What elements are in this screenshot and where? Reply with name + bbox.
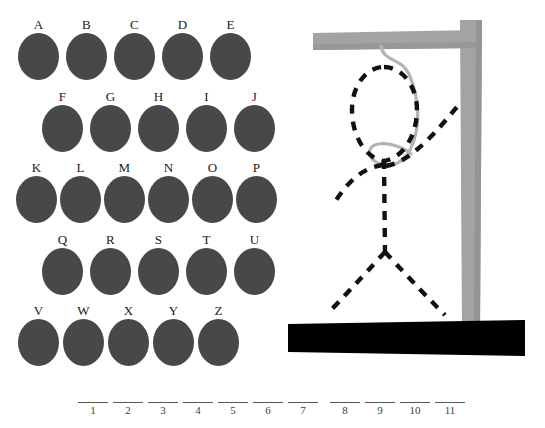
letter-key-disc[interactable] — [114, 33, 155, 80]
blank-number: 10 — [400, 404, 430, 416]
blank-number: 5 — [218, 404, 248, 416]
letter-key-disc[interactable] — [186, 248, 227, 295]
blank-rule — [113, 402, 143, 403]
letter-key-disc[interactable] — [108, 319, 149, 366]
blank-slot-11[interactable]: 11 — [435, 392, 465, 424]
letter-key-label: M — [104, 161, 145, 175]
blank-slot-4[interactable]: 4 — [183, 392, 213, 424]
blank-slot-7[interactable]: 7 — [288, 392, 318, 424]
letter-key-label: K — [16, 161, 57, 175]
letter-key-disc[interactable] — [198, 319, 239, 366]
letter-key-label: A — [18, 18, 59, 32]
word-blanks: 1234567891011 — [0, 392, 545, 428]
letter-key-l[interactable]: L — [60, 161, 101, 225]
letter-key-b[interactable]: B — [66, 18, 107, 82]
blank-slot-3[interactable]: 3 — [148, 392, 178, 424]
blank-number: 4 — [183, 404, 213, 416]
blank-rule — [148, 402, 178, 403]
letter-key-u[interactable]: U — [234, 233, 275, 297]
blank-slot-10[interactable]: 10 — [400, 392, 430, 424]
stick-figure-icon — [332, 67, 460, 315]
letter-key-k[interactable]: K — [16, 161, 57, 225]
blank-rule — [365, 402, 395, 403]
letter-key-disc[interactable] — [138, 248, 179, 295]
letter-key-m[interactable]: M — [104, 161, 145, 225]
letter-key-disc[interactable] — [162, 33, 203, 80]
blank-rule — [253, 402, 283, 403]
letter-key-z[interactable]: Z — [198, 304, 239, 368]
letter-key-disc[interactable] — [16, 176, 57, 223]
letter-key-disc[interactable] — [234, 105, 275, 152]
letter-key-disc[interactable] — [210, 33, 251, 80]
blank-slot-6[interactable]: 6 — [253, 392, 283, 424]
figure-right-leg — [385, 252, 445, 315]
letter-key-disc[interactable] — [60, 176, 101, 223]
figure-head — [352, 67, 417, 161]
blank-slot-5[interactable]: 5 — [218, 392, 248, 424]
letter-key-disc[interactable] — [18, 33, 59, 80]
letter-key-label: J — [234, 90, 275, 104]
letter-key-label: Q — [42, 233, 83, 247]
blank-slot-8[interactable]: 8 — [330, 392, 360, 424]
letter-key-label: Y — [153, 304, 194, 318]
letter-key-o[interactable]: O — [192, 161, 233, 225]
letter-key-disc[interactable] — [192, 176, 233, 223]
letter-key-r[interactable]: R — [90, 233, 131, 297]
letter-key-g[interactable]: G — [90, 90, 131, 154]
letter-key-t[interactable]: T — [186, 233, 227, 297]
letter-key-label: B — [66, 18, 107, 32]
letter-key-h[interactable]: H — [138, 90, 179, 154]
rope-icon — [369, 46, 417, 165]
letter-key-disc[interactable] — [90, 105, 131, 152]
letter-key-label: X — [108, 304, 149, 318]
letter-key-i[interactable]: I — [186, 90, 227, 154]
letter-key-label: C — [114, 18, 155, 32]
blank-rule — [218, 402, 248, 403]
letter-key-x[interactable]: X — [108, 304, 149, 368]
letter-key-label: E — [210, 18, 251, 32]
blank-slot-1[interactable]: 1 — [78, 392, 108, 424]
letter-key-disc[interactable] — [148, 176, 189, 223]
figure-left-leg — [332, 252, 385, 309]
letter-key-w[interactable]: W — [63, 304, 104, 368]
letter-key-disc[interactable] — [234, 248, 275, 295]
letter-key-label: P — [236, 161, 277, 175]
blank-slot-9[interactable]: 9 — [365, 392, 395, 424]
blank-number: 9 — [365, 404, 395, 416]
letter-key-disc[interactable] — [42, 105, 83, 152]
letter-key-q[interactable]: Q — [42, 233, 83, 297]
letter-key-disc[interactable] — [66, 33, 107, 80]
letter-key-disc[interactable] — [18, 319, 59, 366]
letter-key-p[interactable]: P — [236, 161, 277, 225]
letter-key-disc[interactable] — [104, 176, 145, 223]
letter-key-label: F — [42, 90, 83, 104]
letter-key-a[interactable]: A — [18, 18, 59, 82]
blank-slot-2[interactable]: 2 — [113, 392, 143, 424]
blank-rule — [400, 402, 430, 403]
letter-key-d[interactable]: D — [162, 18, 203, 82]
letter-key-c[interactable]: C — [114, 18, 155, 82]
letter-key-disc[interactable] — [236, 176, 277, 223]
figure-left-arm — [335, 165, 383, 202]
letter-key-disc[interactable] — [63, 319, 104, 366]
letter-key-disc[interactable] — [186, 105, 227, 152]
ground-base-icon — [288, 320, 525, 356]
blank-rule — [78, 402, 108, 403]
letter-key-disc[interactable] — [153, 319, 194, 366]
letter-key-label: V — [18, 304, 59, 318]
letter-key-label: U — [234, 233, 275, 247]
letter-key-j[interactable]: J — [234, 90, 275, 154]
letter-key-s[interactable]: S — [138, 233, 179, 297]
blank-number: 2 — [113, 404, 143, 416]
letter-key-e[interactable]: E — [210, 18, 251, 82]
letter-key-f[interactable]: F — [42, 90, 83, 154]
letter-key-v[interactable]: V — [18, 304, 59, 368]
letter-key-label: R — [90, 233, 131, 247]
letter-key-disc[interactable] — [42, 248, 83, 295]
letter-key-n[interactable]: N — [148, 161, 189, 225]
blank-rule — [288, 402, 318, 403]
letter-key-disc[interactable] — [90, 248, 131, 295]
blank-number: 7 — [288, 404, 318, 416]
letter-key-y[interactable]: Y — [153, 304, 194, 368]
letter-key-disc[interactable] — [138, 105, 179, 152]
